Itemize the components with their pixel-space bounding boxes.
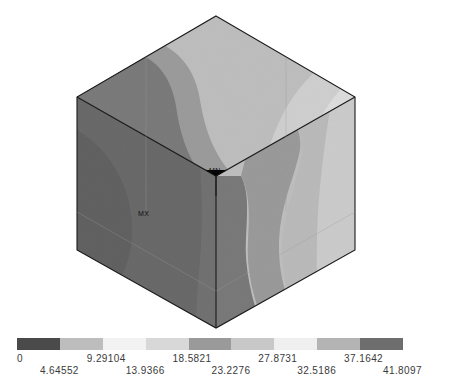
min-marker-label: MN (209, 167, 221, 174)
colorbar-tick-upper-0: 0 (17, 353, 23, 364)
colorbar-band-5 (231, 338, 274, 350)
colorbar-tick-lower-2: 23.2276 (211, 365, 250, 376)
max-marker-label: MX (138, 210, 149, 217)
colorbar-band-1 (60, 338, 103, 350)
colorbar-band-8 (360, 338, 403, 350)
colorbar-band-2 (103, 338, 146, 350)
colorbar-tick-upper-1: 9.29104 (87, 353, 126, 364)
cube-contour-svg (0, 0, 455, 391)
plot-canvas: MN MX 09.2910418.582127.873137.1642 4.64… (0, 0, 455, 391)
colorbar-tick-upper-3: 27.8731 (258, 353, 297, 364)
colorbar (17, 338, 403, 350)
colorbar-band-3 (146, 338, 189, 350)
colorbar-tick-lower-0: 4.64552 (40, 365, 79, 376)
colorbar-tick-lower-4: 41.8097 (383, 365, 422, 376)
colorbar-tick-lower-3: 32.5186 (297, 365, 336, 376)
colorbar-band-6 (274, 338, 317, 350)
colorbar-band-4 (189, 338, 232, 350)
colorbar-tick-lower-1: 13.9366 (126, 365, 165, 376)
colorbar-band-7 (317, 338, 360, 350)
colorbar-tick-upper-4: 37.1642 (344, 353, 383, 364)
colorbar-band-0 (17, 338, 60, 350)
colorbar-tick-upper-2: 18.5821 (173, 353, 212, 364)
